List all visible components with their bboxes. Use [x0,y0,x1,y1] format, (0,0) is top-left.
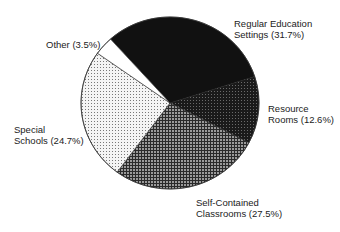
label-line: Resource [268,103,334,114]
label-resource-rooms: Resource Rooms (12.6%) [268,103,334,125]
label-regular-education: Regular Education Settings (31.7%) [234,18,312,40]
label-line: Regular Education [234,18,312,29]
label-line: Self-Contained [196,197,282,208]
label-special-schools: Special Schools (24.7%) [14,124,84,146]
pie-slices [81,17,259,189]
label-self-contained: Self-Contained Classrooms (27.5%) [196,197,282,219]
label-line: Schools (24.7%) [14,135,84,146]
label-line: Special [14,124,84,135]
label-line: Rooms (12.6%) [268,114,334,125]
label-line: Classrooms (27.5%) [196,208,282,219]
label-line: Settings (31.7%) [234,29,312,40]
label-line: Other (3.5%) [46,39,100,50]
label-other: Other (3.5%) [46,39,100,50]
